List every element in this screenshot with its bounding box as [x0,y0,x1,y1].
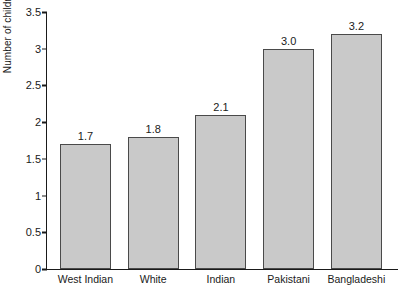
x-tick-label-bangladeshi: Bangladeshi [327,273,385,285]
y-tick-label-0: 0 [35,263,41,275]
y-tick-mark-0 [42,269,47,271]
y-tick-mark-2 [42,195,47,197]
bar-west-indian[interactable]: 1.7 West Indian [60,144,111,269]
x-tick-label-west-indian: West Indian [58,273,113,285]
bar-value-west-indian: 1.7 [78,130,93,142]
bar-value-indian: 2.1 [213,101,228,113]
bar-chart: Number of children 0 0.5 1 1.5 2 2.5 3 3… [0,0,411,306]
x-tick-label-pakistani: Pakistani [267,273,310,285]
y-tick-label-7: 3.5 [26,6,41,18]
y-tick-mark-1 [42,232,47,234]
x-tick-label-white: White [140,273,167,285]
y-tick-label-3: 1.5 [26,153,41,165]
y-tick-mark-5 [42,85,47,87]
y-tick-label-6: 3 [35,43,41,55]
bar-bangladeshi[interactable]: 3.2 Bangladeshi [331,34,382,269]
bar-value-pakistani: 3.0 [281,35,296,47]
y-tick-mark-3 [42,158,47,160]
bar-indian[interactable]: 2.1 Indian [195,115,246,269]
bar-value-white: 1.8 [146,123,161,135]
bar-white[interactable]: 1.8 White [128,137,179,269]
y-tick-mark-6 [42,48,47,50]
bar-value-bangladeshi: 3.2 [349,20,364,32]
y-tick-mark-4 [42,122,47,124]
plot-area: 0 0.5 1 1.5 2 2.5 3 3.5 1.7 West Indian … [46,12,398,270]
y-axis-title: Number of children [2,0,13,90]
bar-pakistani[interactable]: 3.0 Pakistani [263,49,314,269]
y-tick-label-2: 1 [35,190,41,202]
y-tick-label-1: 0.5 [26,226,41,238]
y-tick-mark-7 [42,12,47,14]
y-tick-label-5: 2.5 [26,79,41,91]
y-tick-label-4: 2 [35,116,41,128]
x-tick-label-indian: Indian [207,273,236,285]
